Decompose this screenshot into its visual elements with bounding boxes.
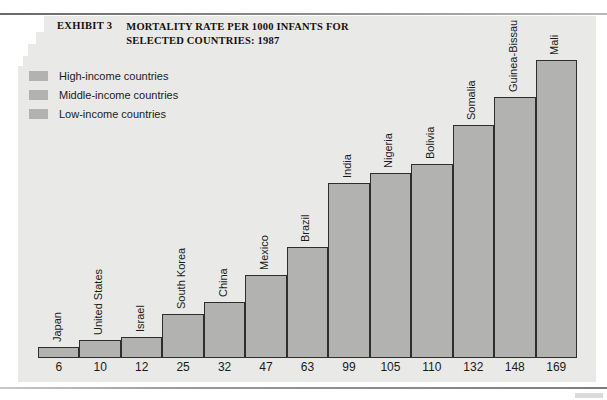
value-label: 169: [536, 360, 577, 374]
bar-nigeria: Nigeria: [370, 173, 411, 358]
scan-notch: [18, 16, 44, 32]
bar-label: Brazil: [299, 214, 311, 242]
bar-brazil: Brazil: [287, 247, 328, 358]
bar-united-states: United States: [79, 340, 120, 358]
bar-label: China: [217, 268, 229, 297]
bar-label: Bolivia: [424, 127, 436, 159]
scan-rule-top: [0, 13, 607, 15]
scan-notch: [18, 56, 23, 66]
bar-israel: Israel: [121, 337, 162, 358]
scan-rule-bottom: [0, 387, 607, 389]
page-margin-left: [0, 16, 18, 382]
value-label: 148: [494, 360, 535, 374]
bar-bolivia: Bolivia: [411, 164, 452, 358]
value-label: 63: [287, 360, 328, 374]
value-label: 99: [328, 360, 369, 374]
value-label: 25: [162, 360, 203, 374]
bar-somalia: Somalia: [453, 125, 494, 358]
bar-japan: Japan: [38, 347, 79, 358]
bar-mexico: Mexico: [245, 275, 286, 358]
bar-guinea-bissau: Guinea-Bissau: [494, 97, 535, 358]
bar-label: Mexico: [258, 235, 270, 270]
bar-mali: Mali: [536, 60, 577, 358]
scan-notch: [18, 44, 28, 56]
bar-south-korea: South Korea: [162, 314, 203, 358]
exhibit-page: EXHIBIT 3 MORTALITY RATE PER 1000 INFANT…: [0, 0, 607, 400]
value-label: 32: [204, 360, 245, 374]
value-label: 12: [121, 360, 162, 374]
scan-notch: [18, 32, 36, 44]
bar-label: Somalia: [465, 81, 477, 121]
value-label: 132: [453, 360, 494, 374]
bar-india: India: [328, 183, 369, 358]
bar-label: India: [341, 155, 353, 179]
bar-label: Israel: [134, 305, 146, 332]
value-label: 10: [79, 360, 120, 374]
value-label: 6: [38, 360, 79, 374]
scan-corner-mark: [575, 393, 603, 398]
bar-label: Japan: [51, 312, 63, 342]
exhibit-number: EXHIBIT 3: [57, 20, 112, 31]
value-label: 110: [411, 360, 452, 374]
bar-china: China: [204, 302, 245, 358]
bar-label: South Korea: [175, 248, 187, 309]
bar-label: United States: [92, 269, 104, 335]
value-label: 105: [370, 360, 411, 374]
value-label: 47: [245, 360, 286, 374]
chart-plot-area: JapanUnited StatesIsraelSouth KoreaChina…: [38, 40, 577, 358]
value-axis: 610122532476399105110132148169: [38, 360, 577, 378]
page-margin-right: [596, 16, 607, 382]
bar-label: Nigeria: [382, 133, 394, 168]
